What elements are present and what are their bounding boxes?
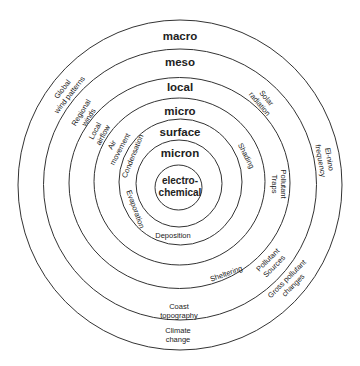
factor-el-nino: El-nino frequency xyxy=(313,142,336,178)
factor-sheltering: Sheltering xyxy=(209,264,244,284)
factor-climate-change-line2: change xyxy=(166,335,191,344)
factor-deposition: Deposition xyxy=(155,231,190,240)
factor-pollutant-sources: Pollutant Sources xyxy=(254,246,288,280)
scale-label-micro: micro xyxy=(164,105,195,117)
scale-label-surface: surface xyxy=(160,126,201,138)
svg-text:Traps: Traps xyxy=(270,175,279,194)
scale-diagram: macro meso local micro surface micron el… xyxy=(0,0,360,366)
scale-label-macro: macro xyxy=(163,30,198,42)
svg-text:Pollutant: Pollutant xyxy=(279,169,288,199)
center-label-line1: electro- xyxy=(162,175,198,186)
factor-coast-topography-line2: topography xyxy=(160,311,198,320)
svg-text:Evaporation: Evaporation xyxy=(124,189,146,230)
svg-text:Shading: Shading xyxy=(236,142,257,171)
factor-coast-topography-line1: Coast xyxy=(169,302,190,311)
factor-pollutant-traps: Pollutant Traps xyxy=(270,169,288,199)
center-label-line2: chemical xyxy=(159,187,202,198)
scale-label-meso: meso xyxy=(165,56,195,68)
factor-evaporation: Evaporation xyxy=(124,189,146,230)
scale-label-local: local xyxy=(167,81,193,93)
factor-solar-radiation: Solar radiation xyxy=(247,84,279,118)
scale-label-micron: micron xyxy=(161,147,199,159)
svg-text:Sheltering: Sheltering xyxy=(209,264,244,284)
factor-climate-change-line1: Climate xyxy=(165,326,190,335)
factor-shading: Shading xyxy=(236,142,257,171)
